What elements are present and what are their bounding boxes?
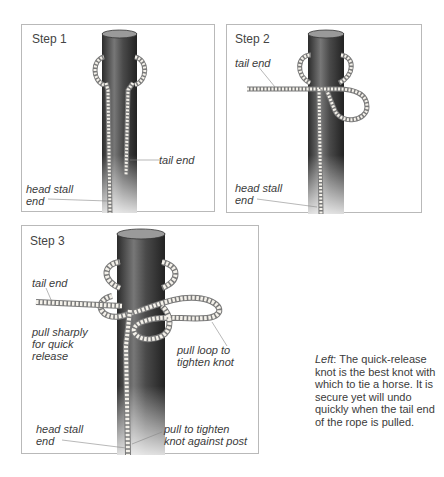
step-1-panel: Step 1 tail end head stall end [21,24,215,212]
pull-tighten-label-line1: pull to tighten [164,423,229,435]
head-stall-label-line2: end [26,195,44,207]
pull-loop-label-line2: tighten knot [177,356,234,368]
tail-end-label: tail end [159,154,194,166]
step-3-panel: Step 3 tail end pull sharply for quick r… [21,225,259,454]
pull-sharply-label-line2: for quick [32,338,74,350]
caption-lead: Left [315,353,333,365]
tail-end-label: tail end [32,277,67,289]
head-stall-label-line2: end [36,435,54,447]
cropped-header-remnant [125,0,215,4]
step-3-label: Step 3 [30,234,65,248]
pull-loop-label-line1: pull loop to [177,344,230,356]
tail-end-label: tail end [235,57,270,69]
figure-caption: Left: The quick-release knot is the best… [315,353,443,429]
head-stall-label-line1: head stall [36,423,83,435]
pull-sharply-label-line3: release [32,350,68,362]
pull-tighten-label-line2: knot against post [164,435,247,447]
head-stall-label-line1: head stall [26,183,73,195]
head-stall-label-line2: end [235,194,253,206]
pull-sharply-label-line1: pull sharply [32,326,88,338]
step-2-label: Step 2 [235,32,270,46]
head-stall-label-line1: head stall [235,182,282,194]
step-1-label: Step 1 [32,32,67,46]
caption-text: : The quick-release knot is the best kno… [315,353,435,428]
step-2-panel: Step 2 tail end head stall end [226,24,422,213]
